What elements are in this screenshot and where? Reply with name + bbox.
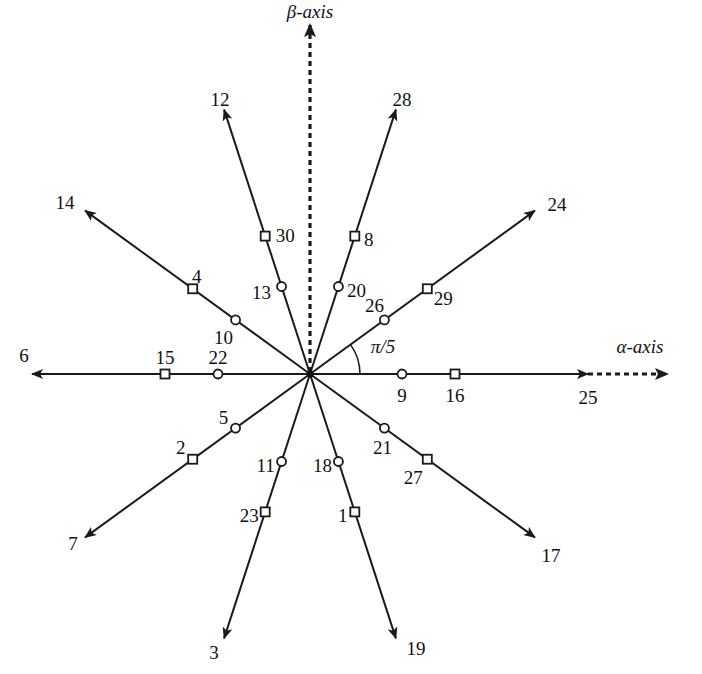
vector-ray xyxy=(224,374,310,638)
circle-marker xyxy=(277,282,286,291)
circle-marker xyxy=(214,370,223,379)
vector-ray xyxy=(224,110,310,374)
circle-marker-label: 20 xyxy=(347,280,366,301)
origin-point xyxy=(307,371,314,378)
circle-marker xyxy=(334,282,343,291)
square-marker xyxy=(261,232,270,241)
circle-marker-label: 13 xyxy=(252,282,271,303)
circle-marker xyxy=(398,370,407,379)
square-marker xyxy=(161,370,170,379)
ray-tip-label: 24 xyxy=(547,194,567,215)
vector-ray xyxy=(310,110,396,374)
square-marker xyxy=(350,507,359,516)
circle-marker-label: 22 xyxy=(209,347,228,368)
diagram-canvas: β-axis α-axis π/5 2516924292628820123013… xyxy=(0,0,702,674)
angle-label: π/5 xyxy=(371,336,395,357)
vector-ray xyxy=(310,374,396,638)
square-marker-label: 1 xyxy=(338,505,348,526)
square-marker-label: 23 xyxy=(240,505,259,526)
circle-marker-label: 5 xyxy=(219,407,229,428)
square-marker xyxy=(188,455,197,464)
circle-marker xyxy=(231,424,240,433)
square-marker-label: 2 xyxy=(176,437,186,458)
beta-axis-label: β-axis xyxy=(286,1,333,22)
ray-tip-label: 25 xyxy=(579,387,598,408)
circle-marker-label: 21 xyxy=(373,437,392,458)
square-marker-label: 16 xyxy=(446,385,465,406)
ray-tip-label: 28 xyxy=(392,89,411,110)
circle-marker xyxy=(380,315,389,324)
ray-tip-label: 14 xyxy=(56,192,76,213)
square-marker-label: 8 xyxy=(364,229,374,250)
square-marker xyxy=(423,455,432,464)
square-marker xyxy=(261,507,270,516)
angle-arc xyxy=(351,345,361,374)
circle-marker xyxy=(334,457,343,466)
square-marker xyxy=(423,284,432,293)
square-marker-label: 4 xyxy=(192,266,202,287)
circle-marker-label: 11 xyxy=(256,455,274,476)
square-marker xyxy=(350,232,359,241)
ray-tip-label: 17 xyxy=(541,545,560,566)
alpha-axis-label: α-axis xyxy=(617,336,664,357)
circle-marker-label: 9 xyxy=(397,385,407,406)
square-marker-label: 29 xyxy=(434,288,453,309)
square-marker-label: 27 xyxy=(404,467,423,488)
circle-marker-label: 26 xyxy=(365,295,384,316)
vector-star-diagram: β-axis α-axis π/5 2516924292628820123013… xyxy=(0,0,702,674)
ray-tip-label: 3 xyxy=(209,642,219,663)
circle-marker-label: 10 xyxy=(214,327,233,348)
ray-tip-label: 6 xyxy=(19,345,29,366)
square-marker-label: 30 xyxy=(276,225,295,246)
ray-tip-label: 12 xyxy=(211,89,230,110)
ray-tip-label: 7 xyxy=(68,533,78,554)
circle-marker xyxy=(380,424,389,433)
circle-marker xyxy=(277,457,286,466)
ray-tip-label: 19 xyxy=(406,638,425,659)
square-marker-label: 15 xyxy=(156,347,175,368)
circle-marker-label: 18 xyxy=(313,455,332,476)
circle-marker xyxy=(231,315,240,324)
square-marker xyxy=(451,370,460,379)
